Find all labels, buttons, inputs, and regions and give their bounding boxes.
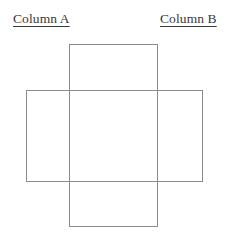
- horizontal-rectangle: [27, 91, 203, 182]
- figure-screenshot: Column A Column B: [0, 0, 228, 237]
- vertical-rectangle: [70, 45, 158, 227]
- overlapping-rectangles-figure: [0, 0, 228, 237]
